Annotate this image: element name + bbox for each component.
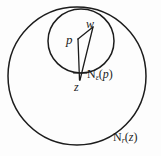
n-epsilon-base: N — [87, 67, 96, 81]
n-epsilon-close-paren: ) — [109, 67, 113, 81]
point-label-z: z — [74, 81, 79, 93]
math-figure: w p z Nε(p) Nr(z) — [0, 0, 161, 156]
segment-p-to-z — [78, 39, 80, 80]
outer-circle-label-n-r-z: Nr(z) — [113, 131, 137, 145]
n-r-base: N — [113, 130, 122, 144]
inner-circle-label-n-epsilon-p: Nε(p) — [87, 68, 113, 82]
point-label-w: w — [86, 18, 94, 30]
inner-circle-n-epsilon-p — [48, 9, 114, 73]
n-r-close-paren: ) — [133, 130, 137, 144]
outer-circle-n-r-z — [8, 7, 146, 145]
point-label-p: p — [66, 33, 73, 46]
